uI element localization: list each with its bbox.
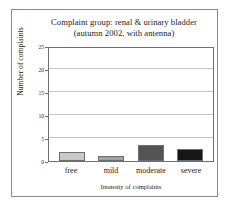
y-axis-tick-mark bbox=[45, 162, 48, 163]
bar-slot bbox=[131, 48, 171, 161]
y-axis-tick-label: 10 bbox=[30, 113, 44, 119]
y-axis-tick-label: 5 bbox=[30, 136, 44, 142]
chart-figure: Complaint group: renal & urinary bladder… bbox=[0, 0, 226, 206]
y-axis-title: Number of complaints bbox=[16, 6, 25, 118]
bar-slot bbox=[92, 48, 132, 161]
x-axis-label-moderate: moderate bbox=[131, 166, 171, 175]
x-axis-label-mild: mild bbox=[91, 166, 131, 175]
bar-slot bbox=[52, 48, 92, 161]
x-axis-category-labels: freemildmoderatesevere bbox=[48, 166, 214, 175]
plot-area bbox=[48, 47, 214, 162]
bar-series bbox=[49, 48, 213, 161]
x-axis-label-severe: severe bbox=[171, 166, 211, 175]
bar-mild bbox=[98, 156, 124, 161]
chart-title-line1: Complaint group: renal & urinary bladder bbox=[51, 17, 197, 27]
bar-free bbox=[59, 152, 85, 161]
chart-title-line2: (autumn 2002, with antenna) bbox=[30, 28, 218, 39]
y-axis-tick-label: 0 bbox=[30, 159, 44, 165]
bar-severe bbox=[177, 149, 203, 161]
y-axis-tick-label: 15 bbox=[30, 90, 44, 96]
chart-title: Complaint group: renal & urinary bladder… bbox=[30, 17, 218, 38]
y-axis-tick-label: 20 bbox=[30, 67, 44, 73]
x-axis-title: Intensity of complaints bbox=[48, 183, 214, 190]
y-axis-tick-label: 25 bbox=[30, 44, 44, 50]
x-axis-label-free: free bbox=[51, 166, 91, 175]
bar-slot bbox=[171, 48, 211, 161]
bar-moderate bbox=[138, 145, 164, 161]
